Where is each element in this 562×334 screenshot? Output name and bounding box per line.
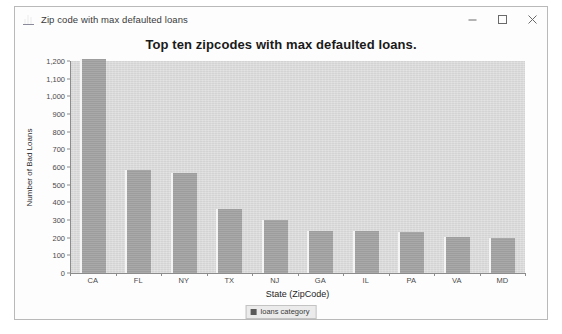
x-tick-label-pa: PA [389,276,435,285]
window-title: Zip code with max defaulted loans [41,14,188,25]
x-tick-label-il: IL [343,276,389,285]
plot-area [70,61,525,273]
bar-fl[interactable] [125,170,151,273]
legend-label: loans category [261,307,310,316]
chart-legend[interactable]: loans category [246,305,317,319]
minimize-button[interactable] [457,7,487,31]
x-tick-mark [161,273,162,276]
x-tick-mark [343,273,344,276]
x-axis-title: State (ZipCode) [70,289,525,299]
chart-panel: Top ten zipcodes with max defaulted loan… [15,31,547,319]
bar-slot [298,61,344,273]
bar-slot [207,61,253,273]
bar-md[interactable] [489,238,515,273]
x-tick-label-fl: FL [116,276,162,285]
bar-va[interactable] [444,237,470,273]
application-window: Zip code with max defaulted loans Top te… [14,6,548,320]
bar-slot [161,61,207,273]
x-tick-label-va: VA [434,276,480,285]
x-tick-label-ny: NY [161,276,207,285]
bar-slot [389,61,435,273]
bar-pa[interactable] [398,232,424,273]
bar-slot [343,61,389,273]
chart-icon [23,13,35,25]
bar-ny[interactable] [171,173,197,273]
y-axis-title: Number of Bad Loans [24,61,36,273]
y-axis-title-text: Number of Bad Loans [26,128,35,206]
x-tick-label-tx: TX [207,276,253,285]
chart-title: Top ten zipcodes with max defaulted loan… [15,37,547,52]
bar-slot [252,61,298,273]
close-button[interactable] [517,7,547,31]
bar-slot [116,61,162,273]
x-tick-mark [116,273,117,276]
x-tick-label-ca: CA [70,276,116,285]
x-tick-mark [70,273,71,276]
y-axis-line [70,61,71,274]
x-axis-labels: CAFLNYTXNJGAILPAVAMD [70,276,525,285]
legend-swatch-icon [251,309,257,315]
bar-slot [480,61,526,273]
window-controls [457,7,547,31]
maximize-button[interactable] [487,7,517,31]
bar-series [70,61,525,273]
bar-tx[interactable] [216,209,242,273]
bar-il[interactable] [353,231,379,273]
x-tick-mark [434,273,435,276]
x-tick-label-ga: GA [298,276,344,285]
bar-nj[interactable] [262,220,288,273]
window-titlebar[interactable]: Zip code with max defaulted loans [15,7,547,31]
x-tick-mark [298,273,299,276]
bar-ga[interactable] [307,231,333,273]
x-tick-mark [480,273,481,276]
x-tick-mark [389,273,390,276]
x-tick-label-nj: NJ [252,276,298,285]
x-tick-mark [207,273,208,276]
bar-slot [70,61,116,273]
bar-slot [434,61,480,273]
bar-ca[interactable] [80,59,106,273]
x-tick-mark [525,273,526,276]
x-tick-mark [252,273,253,276]
x-tick-label-md: MD [480,276,526,285]
